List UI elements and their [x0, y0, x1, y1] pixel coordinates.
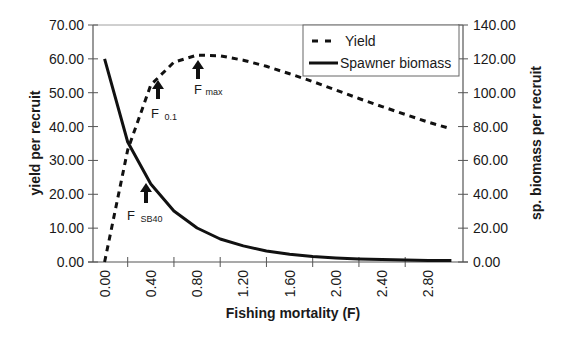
right-y-ticks: 0.0020.0040.0060.0080.00100.00120.00140.…	[458, 17, 516, 270]
y2-tick-label: 20.00	[473, 220, 508, 236]
y2-tick-label: 40.00	[473, 186, 508, 202]
annotation-f01: F 0.1	[151, 80, 177, 122]
y-tick-label: 20.00	[49, 186, 84, 202]
x-tick-label: 1.20	[235, 270, 251, 297]
x-tick-label: 2.40	[374, 270, 390, 297]
annotation-fmax-sub: max	[206, 87, 224, 97]
arrow-up-icon	[192, 60, 204, 79]
x-tick-label: 2.00	[328, 270, 344, 297]
annotation-fmax: F max	[192, 60, 223, 97]
svg-text:F max: F max	[194, 82, 223, 97]
x-tick-label: 0.80	[189, 270, 205, 297]
svg-text:F SB40: F SB40	[127, 208, 163, 224]
annotation-fsb40: F SB40	[127, 183, 163, 224]
arrow-up-icon	[140, 183, 152, 203]
x-tick-label: 0.00	[97, 270, 113, 297]
svg-text:Yield: Yield	[345, 33, 376, 49]
annotation-fsb40-label: F	[127, 208, 135, 223]
y2-tick-label: 120.00	[473, 51, 516, 67]
annotation-f01-sub: 0.1	[165, 112, 178, 122]
y-axis-title: yield per recruit	[27, 90, 43, 195]
y2-tick-label: 0.00	[473, 254, 500, 270]
annotation-f01-label: F	[151, 106, 159, 121]
svg-text:Spawner biomass: Spawner biomass	[340, 55, 451, 71]
y2-tick-label: 140.00	[473, 17, 516, 33]
y2-tick-label: 80.00	[473, 119, 508, 135]
y-tick-label: 40.00	[49, 119, 84, 135]
yield-biomass-chart: 0.0010.0020.0030.0040.0050.0060.0070.00 …	[0, 0, 563, 340]
y-tick-label: 10.00	[49, 220, 84, 236]
x-tick-label: 1.60	[282, 270, 298, 297]
y2-axis-title: sp. biomass per recruit	[528, 66, 544, 220]
y2-tick-label: 60.00	[473, 152, 508, 168]
x-tick-label: 2.80	[420, 270, 436, 297]
svg-text:F 0.1: F 0.1	[151, 106, 177, 122]
x-ticks: 0.000.400.801.201.602.002.402.80	[97, 257, 437, 297]
y-tick-label: 70.00	[49, 17, 84, 33]
y-tick-label: 0.00	[57, 254, 84, 270]
y2-tick-label: 100.00	[473, 85, 516, 101]
annotation-fmax-label: F	[194, 82, 202, 97]
annotation-fsb40-sub: SB40	[141, 214, 163, 224]
legend: Yield Spawner biomass	[303, 25, 459, 76]
left-y-ticks: 0.0010.0020.0030.0040.0050.0060.0070.00	[49, 17, 98, 270]
y-tick-label: 60.00	[49, 51, 84, 67]
y-tick-label: 30.00	[49, 152, 84, 168]
x-tick-label: 0.40	[143, 270, 159, 297]
x-axis-title: Fishing mortality (F)	[226, 305, 361, 321]
y-tick-label: 50.00	[49, 85, 84, 101]
